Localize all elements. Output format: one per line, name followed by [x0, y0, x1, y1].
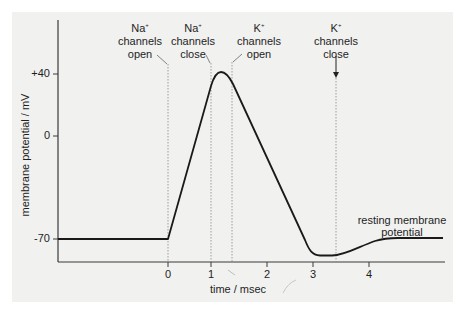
- x-tick-label: 4: [366, 268, 372, 280]
- label-line: channels: [118, 35, 162, 48]
- y-tick-label: -70: [20, 232, 50, 244]
- ion-symbol: K: [254, 22, 261, 34]
- ion-symbol: Na: [131, 22, 145, 34]
- scan-artifact: [283, 280, 296, 293]
- y-axis-label: membrane potential / mV: [19, 94, 31, 217]
- x-tick-label: 1: [208, 268, 214, 280]
- scan-artifact: [228, 270, 235, 275]
- ion-charge: +: [198, 22, 202, 28]
- label-line: open: [118, 48, 162, 61]
- ion-symbol: Na: [184, 22, 198, 34]
- label-line: open: [237, 48, 281, 61]
- y-tick-label: +40: [20, 67, 50, 79]
- ion-charge: +: [261, 22, 265, 28]
- ion-charge: +: [338, 22, 342, 28]
- label-line: resting membrane: [358, 214, 447, 226]
- x-axis-label: time / msec: [210, 283, 266, 295]
- x-tick-label: 3: [310, 268, 316, 280]
- resting-potential-label: resting membrane potential: [358, 214, 447, 238]
- ion-symbol: K: [331, 22, 338, 34]
- chart-plot: [0, 0, 461, 315]
- na-close-label: Na+ channels close: [171, 19, 215, 61]
- na-open-label: Na+ channels open: [118, 19, 162, 61]
- label-line: channels: [237, 35, 281, 48]
- k-open-label: K+ channels open: [237, 19, 281, 61]
- ion-charge: +: [145, 22, 149, 28]
- label-line: close: [314, 48, 358, 61]
- x-tick-label: 0: [165, 268, 171, 280]
- label-line: channels: [314, 35, 358, 48]
- k-close-arrowhead-icon: [333, 72, 339, 78]
- x-tick-label: 2: [264, 268, 270, 280]
- label-line: close: [171, 48, 215, 61]
- label-line: potential: [358, 226, 447, 238]
- label-line: channels: [171, 35, 215, 48]
- k-close-label: K+ channels close: [314, 19, 358, 61]
